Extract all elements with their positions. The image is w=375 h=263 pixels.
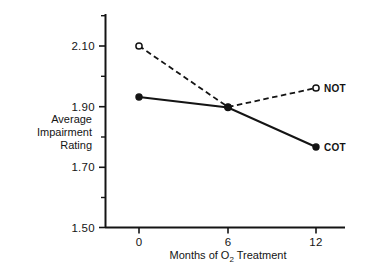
x-tick-label-0: 0 bbox=[136, 236, 143, 248]
series-label-not: NOT bbox=[324, 83, 346, 94]
y-tick-label-0: 2.10 bbox=[71, 40, 95, 52]
x-axis-title: Months of O2 Treatment bbox=[170, 249, 287, 263]
series-label-cot: COT bbox=[324, 142, 346, 153]
y-axis-title-line-2: Impairment bbox=[37, 126, 92, 138]
y-axis-title-line-1: Average bbox=[51, 113, 92, 125]
x-tick-label-1: 6 bbox=[225, 236, 232, 248]
x-tick-label-2: 12 bbox=[309, 236, 322, 248]
y-tick-label-2: 1.70 bbox=[71, 161, 95, 173]
x-axis-title-tail: Treatment bbox=[234, 249, 287, 261]
y-tick-label-3: 1.50 bbox=[71, 222, 95, 234]
y-tick-label-1: 1.90 bbox=[71, 101, 95, 113]
y-axis-title-line-3: Rating bbox=[60, 139, 92, 151]
impairment-rating-line-chart: 2.10 1.90 1.70 1.50 0 6 12 Average Impai… bbox=[0, 0, 375, 263]
x-axis-title-main: Months of O bbox=[170, 249, 230, 261]
